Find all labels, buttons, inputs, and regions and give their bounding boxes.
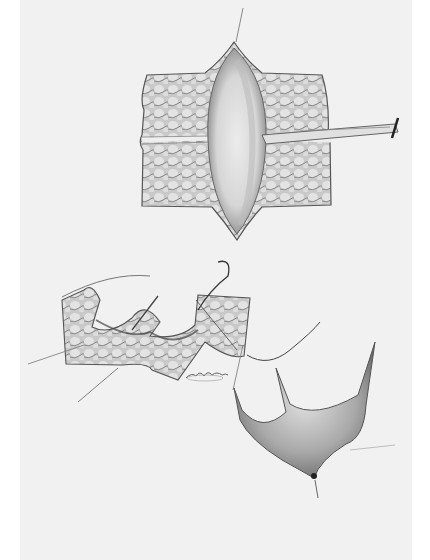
figure-3-closed-flap xyxy=(233,342,395,498)
figure-2-suturing xyxy=(28,261,320,402)
illustration-plate xyxy=(20,0,412,560)
figure-1-opened-flap xyxy=(140,8,398,240)
artist-signature xyxy=(186,373,228,381)
surgical-illustration xyxy=(20,0,412,560)
